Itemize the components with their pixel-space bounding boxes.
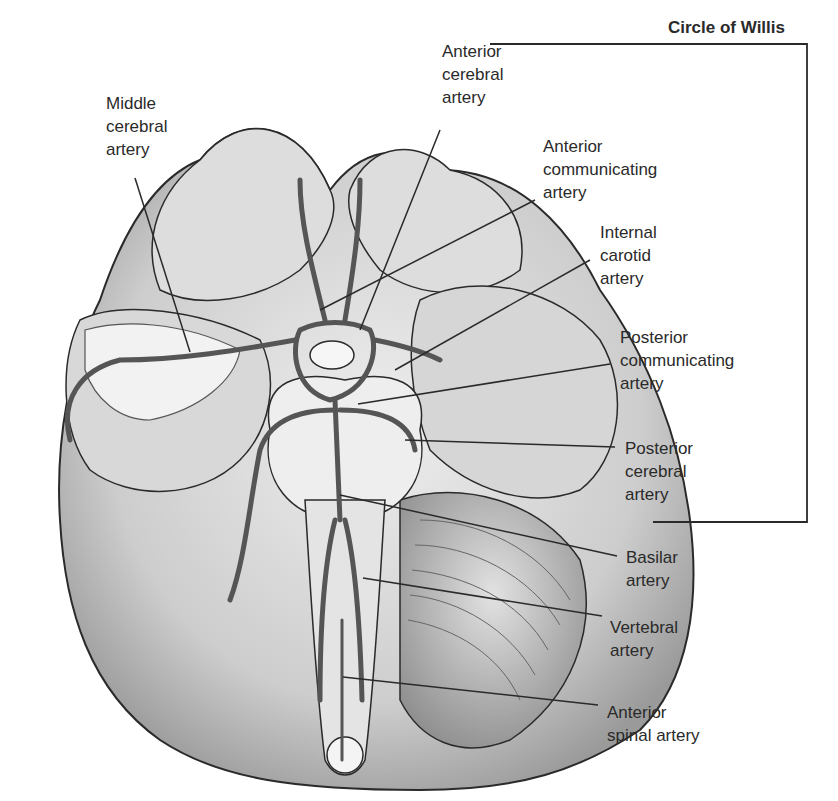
label-vertebral-artery: Vertebral artery	[610, 616, 678, 662]
label-anterior-cerebral-artery: Anterior cerebral artery	[442, 40, 503, 109]
label-internal-carotid-artery: Internal carotid artery	[600, 221, 657, 290]
label-anterior-communicating-artery: Anterior communicating artery	[543, 135, 657, 204]
label-middle-cerebral-artery: Middle cerebral artery	[106, 92, 167, 161]
diagram-title: Circle of Willis	[668, 18, 785, 38]
pituitary-stalk	[310, 341, 354, 369]
label-posterior-communicating-artery: Posterior communicating artery	[620, 326, 734, 395]
label-anterior-spinal-artery: Anterior spinal artery	[607, 701, 700, 747]
spinal-cord-section	[327, 737, 363, 773]
label-basilar-artery: Basilar artery	[626, 546, 678, 592]
label-posterior-cerebral-artery: Posterior cerebral artery	[625, 437, 693, 506]
